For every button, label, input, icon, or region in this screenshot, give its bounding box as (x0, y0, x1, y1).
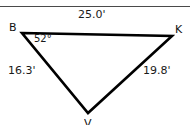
vertex-label-k: K (175, 24, 182, 35)
vertex-label-bottom: V (84, 118, 92, 125)
triangle-figure: B K V 25.0' 16.3' 19.8' 52° (0, 0, 190, 125)
side-length-left: 16.3' (8, 65, 36, 77)
angle-measure-b: 52° (34, 33, 52, 44)
side-length-top: 25.0' (78, 9, 106, 21)
vertex-label-b: B (9, 22, 17, 33)
side-length-right: 19.8' (143, 65, 171, 77)
